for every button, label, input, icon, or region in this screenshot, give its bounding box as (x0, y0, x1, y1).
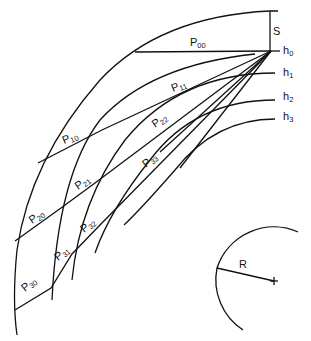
label-p10: P10 (60, 129, 80, 148)
label-p20: P20 (26, 207, 47, 227)
label-p30: P30 (19, 274, 40, 295)
arc-h1 (72, 73, 275, 280)
label-h0: h0 (283, 44, 293, 58)
outer-arc (15, 11, 279, 335)
radius-arc (216, 227, 298, 330)
label-p21: P21 (72, 173, 93, 193)
ray-path-diagram: S h0 h1 h2 h3 P00 P10 P11 P20 P21 P22 P3… (0, 0, 311, 341)
label-p33: P33 (140, 150, 161, 171)
label-h1: h1 (283, 66, 293, 80)
arc-h0-layer (52, 54, 255, 300)
label-p11: P11 (169, 77, 188, 96)
ray-p00 (135, 51, 271, 52)
label-p00: P00 (190, 36, 206, 50)
label-r: R (239, 258, 247, 270)
label-s: S (273, 25, 280, 37)
arc-h3 (124, 119, 275, 225)
label-h2: h2 (283, 90, 293, 104)
ray-p10-p11 (38, 51, 271, 163)
arc-h2 (95, 100, 275, 253)
label-h3: h3 (283, 110, 293, 124)
